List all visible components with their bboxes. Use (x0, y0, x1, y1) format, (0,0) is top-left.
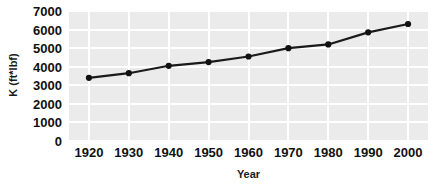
x-tick-label: 1920 (74, 145, 103, 160)
data-point (405, 21, 411, 27)
series-line (89, 24, 408, 78)
data-series-k (69, 11, 428, 141)
plot-area (69, 11, 428, 141)
x-tick-label: 1990 (354, 145, 383, 160)
data-point (285, 45, 291, 51)
y-tick-label: 4000 (33, 59, 62, 74)
y-tick-label: 2000 (33, 96, 62, 111)
x-tick-label: 1940 (154, 145, 183, 160)
x-tick-label: 1980 (314, 145, 343, 160)
line-chart-figure: K (ft*lbf) 01000200030004000500060007000… (0, 0, 440, 193)
x-axis-title: Year (69, 168, 428, 180)
data-point (245, 53, 251, 59)
data-point (166, 63, 172, 69)
x-tick-label: 1950 (194, 145, 223, 160)
y-axis-title-text: K (ft*lbf) (7, 53, 19, 96)
y-tick-label: 5000 (33, 41, 62, 56)
x-tick-label: 1960 (234, 145, 263, 160)
x-tick-label: 1930 (114, 145, 143, 160)
data-point (365, 29, 371, 35)
y-tick-label: 3000 (33, 78, 62, 93)
y-tick-label: 7000 (33, 4, 62, 19)
y-tick-label: 0 (55, 134, 62, 149)
data-point (206, 59, 212, 65)
y-axis-tick-labels: 01000200030004000500060007000 (22, 11, 66, 141)
x-tick-label: 2000 (394, 145, 423, 160)
data-point (126, 70, 132, 76)
y-tick-label: 6000 (33, 22, 62, 37)
x-tick-label: 1970 (274, 145, 303, 160)
data-point (86, 75, 92, 81)
data-point (325, 41, 331, 47)
x-axis-tick-labels: 192019301940195019601970198019902000 (69, 145, 428, 165)
y-tick-label: 1000 (33, 115, 62, 130)
